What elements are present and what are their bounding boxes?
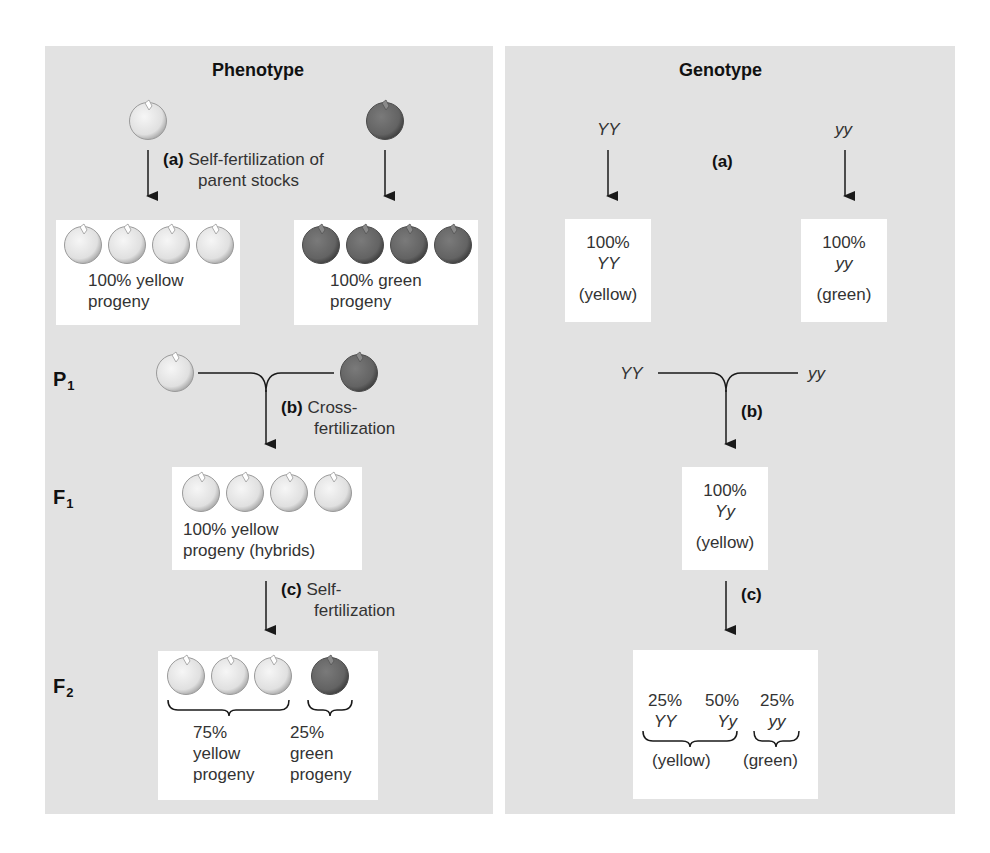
cross-genotype-right: yy	[808, 363, 825, 384]
phenotype-title: Phenotype	[212, 60, 304, 81]
genotype-f2-green-label: (green)	[743, 750, 798, 771]
f1-progeny-line1: 100% yellow	[183, 520, 278, 539]
step-b-text-1: Cross-	[307, 398, 357, 417]
genotype-f1-color: (yellow)	[682, 532, 768, 553]
f1-label: F1	[53, 486, 73, 511]
genotype-f2-item-3-geno: yy	[752, 711, 802, 732]
genotype-f2-yellow-label: (yellow)	[652, 750, 711, 771]
genotype-f2-item-2: 50% Yy	[697, 690, 747, 732]
genotype-box-right-geno: yy	[801, 253, 887, 274]
genotype-box-left-text: 100% YY (yellow)	[565, 232, 651, 305]
genotype-f2-item-2-geno: Yy	[697, 711, 747, 732]
genotype-title: Genotype	[679, 60, 762, 81]
genotype-f1-geno: Yy	[682, 501, 768, 522]
yellow-progeny-line2: progeny	[88, 292, 149, 311]
genotype-f2-item-1-pct: 25%	[637, 690, 693, 711]
genotype-box-right-pct: 100%	[801, 232, 887, 253]
yellow-progeny-caption: 100% yellow progeny	[88, 270, 183, 312]
step-a-label: (a) Self-fertilization of parent stocks	[163, 149, 324, 191]
parent-genotype-right: yy	[835, 119, 852, 140]
genotype-box-right-color: (green)	[801, 284, 887, 305]
step-a-text-1: Self-fertilization of	[189, 150, 324, 169]
genotype-f2-item-1: 25% YY	[637, 690, 693, 732]
genotype-f2-item-3: 25% yy	[752, 690, 802, 732]
step-a-text-2: parent stocks	[163, 171, 299, 190]
f1-progeny-line2: progeny (hybrids)	[183, 541, 315, 560]
step-b-text-2: fertilization	[281, 419, 395, 438]
genotype-f2-item-2-pct: 50%	[697, 690, 747, 711]
step-c-text-1: Self-	[307, 580, 342, 599]
genotype-box-left-geno: YY	[565, 253, 651, 274]
f1-progeny-caption: 100% yellow progeny (hybrids)	[183, 519, 315, 561]
step-c-text-2: fertilization	[281, 601, 395, 620]
green-progeny-caption: 100% green progeny	[330, 270, 422, 312]
f2-yellow-pct: 75%	[193, 723, 227, 742]
genotype-box-right-text: 100% yy (green)	[801, 232, 887, 305]
genotype-box-left-pct: 100%	[565, 232, 651, 253]
genotype-step-c-tag: (c)	[741, 584, 762, 605]
step-a-tag: (a)	[163, 150, 184, 169]
step-c-tag: (c)	[281, 580, 302, 599]
genotype-step-a-tag: (a)	[712, 151, 733, 172]
f2-yellow-line1: yellow	[193, 744, 240, 763]
f2-green-line2: progeny	[290, 765, 351, 784]
f2-green-line1: green	[290, 744, 333, 763]
step-c-label: (c) Self- fertilization	[281, 579, 395, 621]
genotype-step-b-tag: (b)	[741, 401, 763, 422]
step-b-tag: (b)	[281, 398, 303, 417]
green-progeny-line2: progeny	[330, 292, 391, 311]
f2-green-caption: 25% green progeny	[290, 722, 351, 785]
genotype-f1-pct: 100%	[682, 480, 768, 501]
p1-label: P1	[53, 368, 75, 393]
f2-yellow-caption: 75% yellow progeny	[193, 722, 254, 785]
f2-yellow-line2: progeny	[193, 765, 254, 784]
green-progeny-line1: 100% green	[330, 271, 422, 290]
f2-green-pct: 25%	[290, 723, 324, 742]
genotype-f2-item-3-pct: 25%	[752, 690, 802, 711]
cross-genotype-left: YY	[620, 363, 643, 384]
genotype-f2-item-1-geno: YY	[637, 711, 693, 732]
step-b-label: (b) Cross- fertilization	[281, 397, 395, 439]
genotype-box-left-color: (yellow)	[565, 284, 651, 305]
yellow-progeny-line1: 100% yellow	[88, 271, 183, 290]
parent-genotype-left: YY	[597, 119, 620, 140]
genotype-f1-text: 100% Yy (yellow)	[682, 480, 768, 553]
f2-label: F2	[53, 675, 73, 700]
